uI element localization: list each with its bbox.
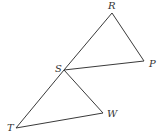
geometry-diagram: R P S W T bbox=[0, 0, 164, 140]
label-s: S bbox=[55, 63, 62, 74]
triangle-stw bbox=[16, 70, 103, 128]
label-w: W bbox=[107, 108, 118, 119]
label-p: P bbox=[148, 58, 156, 69]
label-t: T bbox=[7, 122, 15, 133]
diagram-svg: R P S W T bbox=[0, 0, 164, 140]
triangle-rsp bbox=[64, 13, 144, 70]
label-r: R bbox=[107, 0, 116, 11]
